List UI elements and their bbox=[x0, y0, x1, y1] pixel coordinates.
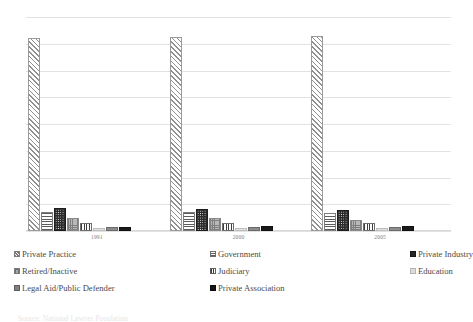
legend-label: Private Practice bbox=[22, 249, 76, 259]
bar bbox=[402, 226, 414, 231]
bar bbox=[350, 220, 362, 232]
bar bbox=[222, 223, 234, 231]
bar bbox=[54, 208, 66, 231]
footer-cut-text: Source: National Lawyer Population bbox=[18, 314, 128, 321]
x-axis-label-1991: 1991 bbox=[26, 234, 168, 240]
legend-item[interactable]: Private Industry bbox=[410, 249, 473, 259]
bar bbox=[67, 218, 79, 231]
legend-swatch-icon bbox=[410, 251, 416, 257]
bar bbox=[209, 218, 221, 231]
bar bbox=[183, 212, 195, 231]
legend-item[interactable]: Retired/Inactive bbox=[14, 266, 210, 276]
legend-swatch-icon bbox=[14, 268, 20, 274]
bar bbox=[311, 36, 323, 231]
bar bbox=[93, 228, 105, 231]
bar-group-2005 bbox=[311, 17, 414, 231]
bar bbox=[119, 227, 131, 231]
legend-item[interactable]: Government bbox=[210, 249, 410, 259]
legend-swatch-icon bbox=[14, 251, 20, 257]
bar bbox=[261, 226, 273, 231]
bar bbox=[389, 227, 401, 231]
legend-label: Judiciary bbox=[218, 266, 250, 276]
x-axis-label-2005: 2005 bbox=[309, 234, 451, 240]
bar bbox=[235, 228, 247, 231]
gridline bbox=[26, 231, 451, 232]
bar bbox=[28, 38, 40, 231]
legend-swatch-icon bbox=[210, 268, 216, 274]
bar bbox=[337, 210, 349, 231]
legend-item[interactable]: Judiciary bbox=[210, 266, 410, 276]
legend-label: Retired/Inactive bbox=[22, 266, 77, 276]
bar bbox=[363, 223, 375, 231]
x-axis-label-2000: 2000 bbox=[168, 234, 310, 240]
legend: Private PracticeGovernmentPrivate Indust… bbox=[14, 249, 449, 293]
bar-group-2000 bbox=[170, 17, 273, 231]
bar bbox=[106, 227, 118, 231]
legend-swatch-icon bbox=[410, 268, 416, 274]
bar bbox=[196, 209, 208, 231]
legend-label: Private Association bbox=[218, 283, 285, 293]
plot-area: 80%70%60%50%40%30%20%10%0% bbox=[26, 17, 451, 231]
legend-swatch-icon bbox=[210, 285, 216, 291]
legend-label: Education bbox=[418, 266, 453, 276]
bar bbox=[248, 227, 260, 231]
legend-item[interactable]: Private Practice bbox=[14, 249, 210, 259]
legend-item[interactable]: Education bbox=[410, 266, 473, 276]
legend-swatch-icon bbox=[14, 285, 20, 291]
bar-group-1991 bbox=[28, 17, 131, 231]
legend-label: Private Industry bbox=[418, 249, 473, 259]
legend-item[interactable]: Private Association bbox=[210, 283, 410, 293]
legend-item[interactable]: Legal Aid/Public Defender bbox=[14, 283, 210, 293]
legend-swatch-icon bbox=[210, 251, 216, 257]
legend-label: Legal Aid/Public Defender bbox=[22, 283, 115, 293]
bar bbox=[80, 223, 92, 231]
bar bbox=[170, 37, 182, 231]
legend-label: Government bbox=[218, 249, 261, 259]
bar bbox=[376, 228, 388, 231]
bar bbox=[41, 212, 53, 231]
bar bbox=[324, 213, 336, 231]
